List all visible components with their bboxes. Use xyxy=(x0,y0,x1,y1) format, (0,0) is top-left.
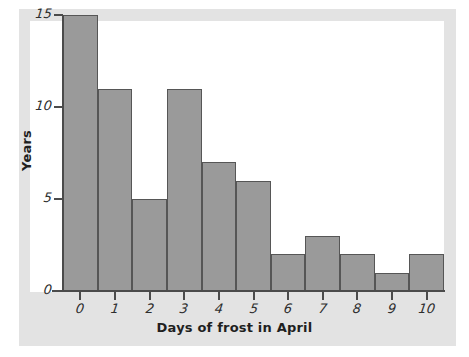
x-axis-tick xyxy=(218,292,220,300)
bar xyxy=(132,199,167,291)
bar xyxy=(409,254,444,291)
bar xyxy=(63,15,98,291)
chart-figure: 051015 012345678910 Years Days of frost … xyxy=(0,0,469,357)
x-axis-tick xyxy=(114,292,116,300)
x-axis-tick-label: 10 xyxy=(406,301,448,316)
x-axis-tick xyxy=(183,292,185,300)
x-axis-tick xyxy=(356,292,358,300)
x-axis-tick xyxy=(391,292,393,300)
y-axis-tick xyxy=(54,290,63,292)
x-axis-tick xyxy=(322,292,324,300)
x-axis-line xyxy=(52,290,445,292)
bar xyxy=(202,162,237,291)
bar xyxy=(98,89,133,291)
y-axis-line xyxy=(62,15,64,291)
bar xyxy=(236,181,271,291)
x-axis-tick xyxy=(426,292,428,300)
bar xyxy=(271,254,306,291)
y-axis-title: Years xyxy=(19,111,34,191)
bar xyxy=(375,273,410,291)
x-axis-tick xyxy=(149,292,151,300)
x-axis-tick xyxy=(287,292,289,300)
x-axis-tick xyxy=(253,292,255,300)
y-axis-tick-label: 0 xyxy=(17,282,53,297)
y-axis-tick xyxy=(54,106,63,108)
y-axis-tick-label: 15 xyxy=(17,6,53,21)
y-axis-tick xyxy=(54,14,63,16)
bar xyxy=(305,236,340,291)
bar xyxy=(340,254,375,291)
y-axis-tick xyxy=(54,198,63,200)
x-axis-tick xyxy=(79,292,81,300)
y-axis-tick-label: 5 xyxy=(17,190,53,205)
x-axis-title: Days of frost in April xyxy=(0,320,469,335)
bar xyxy=(167,89,202,291)
